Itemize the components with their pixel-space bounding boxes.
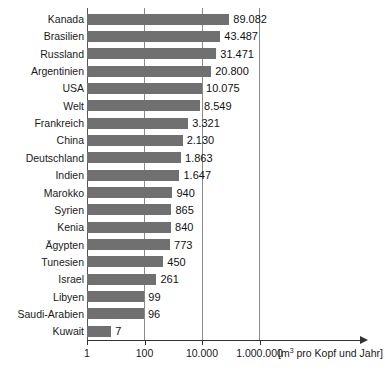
bar-category-label: Saudi-Arabien	[0, 307, 84, 322]
bar-category-label: Kuwait	[0, 324, 84, 339]
bar	[87, 239, 170, 250]
bar-value-label: 1.647	[183, 168, 211, 183]
bar-value-label: 3.321	[192, 116, 220, 131]
bar-category-label: Kenia	[0, 220, 84, 235]
bar-row: Deutschland1.863	[0, 150, 385, 167]
bar	[87, 152, 181, 163]
x-axis-unit-prefix: [m	[278, 347, 290, 359]
bar-value-label: 840	[175, 220, 193, 235]
bar-row: Marokko940	[0, 185, 385, 202]
bar-category-label: Indien	[0, 168, 84, 183]
bar-row: Kanada89.082	[0, 11, 385, 28]
bar	[87, 14, 229, 25]
bar-rows: Kanada89.082Brasilien43.487Russland31.47…	[0, 0, 385, 379]
bar-category-label: Israel	[0, 272, 84, 287]
x-tick-label: 10.000	[186, 346, 218, 360]
bar-value-label: 96	[148, 307, 160, 322]
x-tick-label: 100	[136, 346, 154, 360]
bar-row: Tunesien450	[0, 254, 385, 271]
bar-row: Welt8.549	[0, 98, 385, 115]
bar-row: Kuwait7	[0, 323, 385, 340]
bar-row: Russland31.471	[0, 46, 385, 63]
x-tick-label: 1.000.000	[236, 346, 283, 360]
bar-row: Israel261	[0, 271, 385, 288]
bar-value-label: 940	[176, 186, 194, 201]
bar-category-label: Argentinien	[0, 64, 84, 79]
bar-value-label: 10.075	[206, 81, 240, 96]
bar	[87, 83, 202, 94]
bar-row: Saudi-Arabien96	[0, 306, 385, 323]
bar-row: Ägypten773	[0, 237, 385, 254]
x-tick-mark	[260, 341, 261, 345]
bar	[87, 66, 211, 77]
bar-category-label: USA	[0, 81, 84, 96]
bar	[87, 291, 144, 302]
bar	[87, 256, 163, 267]
bar	[87, 31, 220, 42]
bar-value-label: 7	[115, 324, 121, 339]
bar	[87, 170, 179, 181]
bar-row: Frankreich3.321	[0, 115, 385, 132]
bar-row: China2.130	[0, 132, 385, 149]
bar-category-label: Russland	[0, 47, 84, 62]
bar-value-label: 99	[148, 290, 160, 305]
bar-category-label: Kanada	[0, 12, 84, 27]
bar-value-label: 865	[175, 203, 193, 218]
bar-row: Brasilien43.487	[0, 28, 385, 45]
bar-value-label: 1.863	[185, 151, 213, 166]
bar-value-label: 8.549	[204, 99, 232, 114]
bar	[87, 100, 200, 111]
bar-value-label: 261	[160, 272, 178, 287]
bar-category-label: Deutschland	[0, 151, 84, 166]
bar-value-label: 773	[174, 238, 192, 253]
x-axis-unit-suffix: pro Kopf und Jahr]	[294, 347, 383, 359]
bar-category-label: Marokko	[0, 186, 84, 201]
bar	[87, 204, 171, 215]
x-tick-label: 1	[84, 346, 90, 360]
bar-value-label: 89.082	[233, 12, 267, 27]
bar	[87, 326, 111, 337]
bar	[87, 274, 156, 285]
bar-category-label: Frankreich	[0, 116, 84, 131]
bar	[87, 308, 144, 319]
bar	[87, 222, 171, 233]
bar-value-label: 31.471	[220, 47, 254, 62]
bar-category-label: Syrien	[0, 203, 84, 218]
bar-category-label: Libyen	[0, 290, 84, 305]
bar-row: USA10.075	[0, 80, 385, 97]
bar-value-label: 43.487	[224, 29, 258, 44]
bar	[87, 135, 183, 146]
bar-category-label: China	[0, 133, 84, 148]
bar	[87, 118, 188, 129]
bar-row: Syrien865	[0, 202, 385, 219]
x-tick-mark	[202, 341, 203, 345]
bar-row: Libyen99	[0, 289, 385, 306]
bar-row: Kenia840	[0, 219, 385, 236]
bar	[87, 187, 172, 198]
bar-value-label: 20.800	[215, 64, 249, 79]
x-tick-mark	[87, 341, 88, 345]
bar-row: Indien1.647	[0, 167, 385, 184]
x-tick-mark	[145, 341, 146, 345]
bar-value-label: 2.130	[187, 133, 215, 148]
bar-category-label: Ägypten	[0, 238, 84, 253]
bar-category-label: Brasilien	[0, 29, 84, 44]
x-axis-unit-label: [m3 pro Kopf und Jahr]	[278, 346, 383, 360]
bar-chart: Kanada89.082Brasilien43.487Russland31.47…	[0, 0, 385, 379]
bar-value-label: 450	[167, 255, 185, 270]
bar-category-label: Tunesien	[0, 255, 84, 270]
bar-row: Argentinien20.800	[0, 63, 385, 80]
bar-category-label: Welt	[0, 99, 84, 114]
bar	[87, 48, 216, 59]
